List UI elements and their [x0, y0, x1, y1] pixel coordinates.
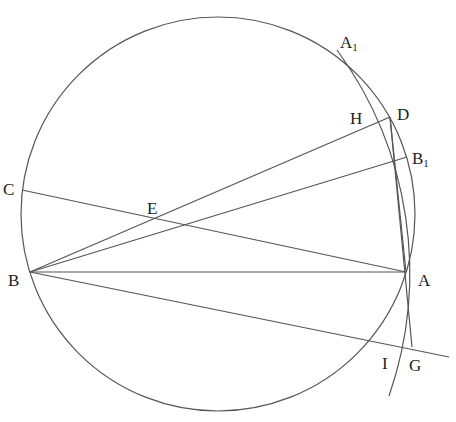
arc-centered-B — [337, 50, 410, 396]
segment-B-B1 — [30, 157, 407, 272]
label-B: B — [8, 272, 19, 289]
segment-C-A — [22, 190, 406, 272]
label-A1: A1 — [340, 34, 358, 53]
label-D: D — [397, 106, 409, 123]
geometry-diagram: A1 D H B1 C E B A I G — [0, 0, 456, 422]
label-H: H — [350, 110, 362, 127]
label-G: G — [409, 357, 421, 374]
segment-D-G — [390, 117, 412, 347]
label-E: E — [147, 200, 157, 217]
line-B-I-G — [30, 272, 449, 357]
label-C: C — [3, 181, 14, 198]
label-B1: B1 — [412, 150, 429, 169]
main-circle — [21, 17, 415, 411]
label-A: A — [418, 272, 430, 289]
label-I: I — [382, 355, 388, 372]
segment-B-D — [30, 117, 390, 272]
